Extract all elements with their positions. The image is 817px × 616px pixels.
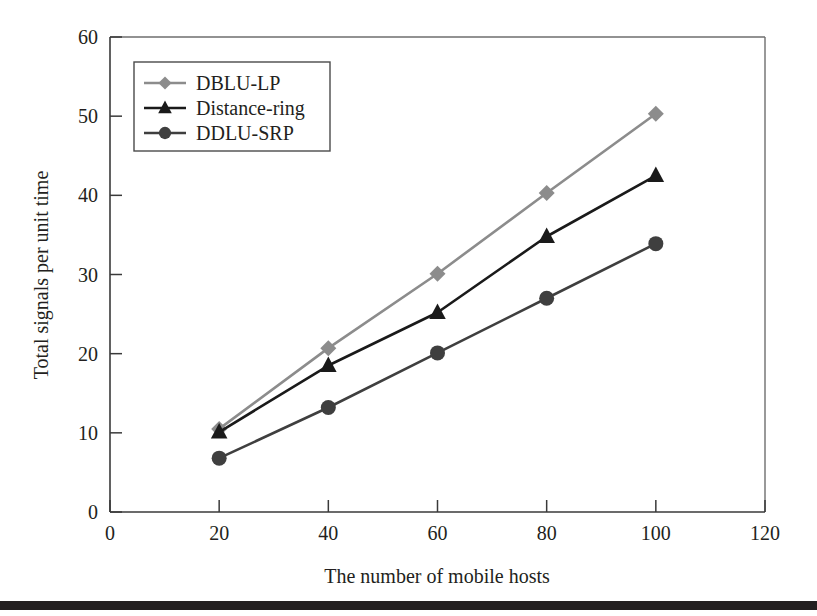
- x-tick-label: 100: [641, 522, 671, 544]
- marker-triangle: [320, 357, 337, 372]
- x-tick-label: 120: [750, 522, 780, 544]
- series-group: [211, 106, 664, 466]
- legend-label: Distance-ring: [196, 97, 305, 120]
- y-tick-label: 10: [78, 422, 98, 444]
- x-tick-label: 60: [428, 522, 448, 544]
- y-tick-label: 50: [78, 105, 98, 127]
- marker-circle: [159, 127, 171, 139]
- x-tick-label: 0: [105, 522, 115, 544]
- legend-label: DDLU-SRP: [196, 122, 294, 144]
- marker-circle: [321, 400, 336, 415]
- marker-circle: [539, 291, 554, 306]
- marker-circle: [430, 345, 445, 360]
- y-tick-label: 30: [78, 264, 98, 286]
- y-tick-group: 0102030405060: [78, 26, 122, 523]
- marker-circle: [212, 451, 227, 466]
- y-tick-label: 40: [78, 184, 98, 206]
- marker-triangle: [538, 228, 555, 243]
- x-tick-group: 020406080100120: [105, 500, 780, 544]
- y-tick-label: 0: [88, 501, 98, 523]
- x-tick-label: 80: [537, 522, 557, 544]
- series-dblu-lp: [211, 106, 664, 437]
- y-axis-title: Total signals per unit time: [30, 171, 53, 380]
- legend-label: DBLU-LP: [196, 72, 280, 94]
- series-distance-ring: [211, 167, 664, 439]
- x-axis-title: The number of mobile hosts: [324, 565, 550, 587]
- marker-triangle: [648, 167, 665, 182]
- marker-triangle: [429, 304, 446, 319]
- x-tick-label: 20: [209, 522, 229, 544]
- chart-legend: DBLU-LPDistance-ringDDLU-SRP: [134, 62, 330, 151]
- line-chart: 0102030405060 020406080100120 DBLU-LPDis…: [0, 0, 817, 616]
- marker-circle: [648, 236, 663, 251]
- bottom-rule: [0, 601, 817, 610]
- x-tick-label: 40: [318, 522, 338, 544]
- y-tick-label: 20: [78, 343, 98, 365]
- chart-figure: 0102030405060 020406080100120 DBLU-LPDis…: [0, 0, 817, 616]
- y-tick-label: 60: [78, 26, 98, 48]
